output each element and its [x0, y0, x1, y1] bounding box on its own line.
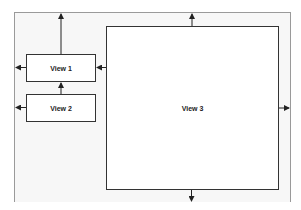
view-1-box: View 1	[26, 54, 96, 82]
container-left-edge	[14, 12, 15, 202]
container-right-edge	[290, 12, 291, 202]
view-1-label: View 1	[50, 65, 72, 72]
diagram-canvas: View 1 View 2 View 3	[0, 0, 301, 210]
container-top-edge	[14, 12, 291, 13]
view-2-box: View 2	[26, 94, 96, 122]
view-3-label: View 3	[182, 105, 204, 112]
view-2-label: View 2	[50, 105, 72, 112]
view-3-box: View 3	[106, 26, 279, 190]
